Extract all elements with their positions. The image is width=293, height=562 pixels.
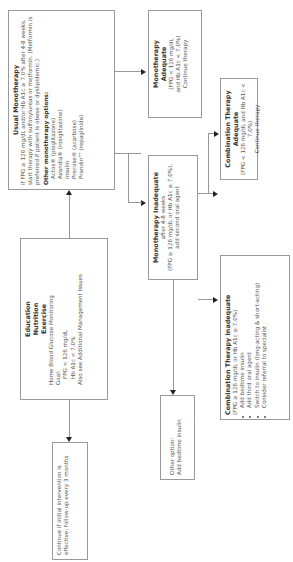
combo-adequate-title: Combination Therapy Adequate (224, 83, 240, 175)
usual-monotherapy-text: If FPG ≥ 126 mg/dL and/or Hb A1c ≥ 7.0% … (20, 15, 42, 185)
education-title: Education (24, 243, 32, 395)
goal-label: Goal: (55, 243, 62, 385)
combo-inadequate-title: Combination Therapy Inadequate (224, 260, 232, 415)
usual-monotherapy-box: Usual Monotherapy If FPG ≥ 126 mg/dL and… (8, 10, 115, 190)
connector-line (198, 299, 214, 300)
mono-adequate-line1: (FPG < 126 mg/dL (168, 15, 175, 113)
connector-line (208, 134, 209, 194)
mono-adequate-title1: Monotherapy (152, 15, 160, 113)
arrow-icon (213, 191, 218, 197)
arrow-icon (66, 190, 72, 195)
combination-adequate-box: Combination Therapy Adequate (FPG < 126 … (220, 78, 258, 180)
goal-hba1c: Hb A1c < 7.0% (70, 243, 77, 385)
option-item: Precose® (acarbose) (71, 15, 78, 185)
education-box: Education Nutrition Exercise Home Blood … (20, 238, 108, 400)
option-item: Insulin (64, 15, 71, 185)
mono-adequate-line2: and Hb A1c < 7.0%) (175, 15, 182, 113)
monotherapy-inadequate-box: Monotherapy Inadequate after 4-8 weeks (… (148, 155, 198, 280)
continue-box: Continue if initial intervention is effe… (52, 442, 88, 560)
other-option-line2: Add bedtime insulin (176, 400, 183, 475)
mono-inadequate-line2: (FPG ≥ 126 mg/dL or Hb A1c ≥ 7.0%), (167, 160, 174, 275)
connector-line (69, 194, 70, 238)
connector-line (198, 193, 214, 194)
combo-adequate-line1: (FPG < 126 mg/dL and Hb A1c < 7.0%) (240, 83, 254, 175)
arrow-icon (66, 437, 72, 442)
combo-adequate-line2: Continue therapy (254, 83, 261, 175)
exercise-title: Exercise (40, 243, 48, 395)
mono-inadequate-line3: add second oral agent (174, 160, 181, 275)
connector-line (69, 400, 70, 438)
other-option-box: Other option: Add bedtime insulin (160, 395, 195, 480)
combination-inadequate-box: Combination Therapy Inadequate (FPG ≥ 12… (220, 255, 290, 420)
combo-inadequate-bullet: Consider referral to specialist (261, 260, 268, 408)
continue-text: Continue if initial intervention is effe… (56, 456, 69, 555)
mono-inadequate-line1: after 4-8 weeks (160, 160, 167, 275)
option-item: Avandia® (rosiglitazone) (57, 15, 64, 185)
arrow-icon (141, 200, 146, 206)
monotherapy-adequate-box: Monotherapy Adequate (FPG < 126 mg/dL an… (148, 10, 202, 118)
other-options-title: Other monotherapy options: (42, 15, 50, 185)
mono-inadequate-title: Monotherapy Inadequate (152, 160, 160, 275)
connector-line (115, 71, 141, 72)
option-item: Prandin™ (repaglinide) (78, 15, 85, 185)
combo-inadequate-bullet: Add third oral agent (246, 260, 253, 408)
flowchart: Continue if initial intervention is effe… (0, 0, 293, 562)
nutrition-title: Nutrition (32, 243, 40, 395)
arrow-icon (213, 297, 218, 303)
mono-adequate-line3: Continue therapy (182, 15, 189, 113)
arrow-icon (214, 131, 219, 137)
mono-adequate-title2: Adequate (160, 15, 168, 113)
combo-inadequate-bullet: Add bedtime insulin (239, 260, 246, 408)
monitoring-text: Home Blood Glucose Monitoring (48, 243, 55, 385)
goal-fpg: FPG < 126 mg/dL (62, 243, 69, 385)
connector-line (128, 153, 129, 203)
option-item: Actos® (pioglitazone) (50, 15, 57, 185)
other-option-line1: Other option: (169, 400, 176, 475)
arrow-icon (141, 69, 146, 75)
usual-monotherapy-title: Usual Monotherapy (12, 15, 20, 185)
connector-line (128, 202, 142, 203)
arrow-icon (170, 390, 176, 395)
combo-inadequate-line1: (FPG ≥ 126 mg/dL or Hb A1c ≥ 7.0%) (232, 260, 239, 415)
connector-line (173, 280, 174, 391)
combo-inadequate-bullet: Switch to insulin (long-acting & short-a… (254, 260, 261, 408)
also-see-text: Also see Additional Management Issues (77, 243, 84, 385)
